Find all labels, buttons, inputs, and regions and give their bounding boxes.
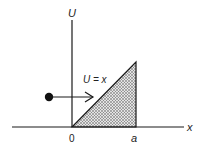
- origin-label: 0: [69, 133, 75, 144]
- potential-diagram: U x 0 a U = x: [0, 0, 200, 148]
- x-axis-label: x: [186, 121, 193, 133]
- u-axis-label: U: [68, 7, 76, 19]
- potential-triangle: [72, 62, 136, 127]
- potential-label: U = x: [83, 74, 108, 85]
- a-label: a: [131, 132, 137, 144]
